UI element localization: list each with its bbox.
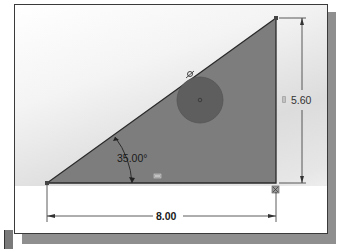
- angle-dimension-label[interactable]: 35.00°: [117, 152, 147, 164]
- perpendicular-icon[interactable]: [272, 186, 279, 193]
- horizontal-icon[interactable]: [154, 174, 161, 178]
- width-dimension-label[interactable]: 8.00: [156, 210, 177, 222]
- tangent-icon[interactable]: [186, 71, 194, 78]
- height-dimension-label[interactable]: 5.60: [291, 94, 312, 106]
- tangent-circle[interactable]: [177, 77, 223, 123]
- vertical-icon[interactable]: [282, 96, 286, 103]
- triangle-profile[interactable]: [47, 18, 276, 183]
- vertex-bottom-left[interactable]: [45, 181, 49, 185]
- sketch-canvas[interactable]: 35.00° 5.60 8.00: [0, 0, 344, 249]
- vertex-top[interactable]: [274, 16, 278, 20]
